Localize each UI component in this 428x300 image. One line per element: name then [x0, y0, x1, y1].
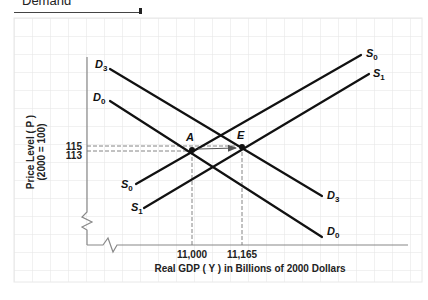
chart-canvas: A E D3 D0 D3 D0 S0 S1 S0 S1 115 113 11,0… — [0, 0, 428, 300]
point-e-marker — [239, 144, 245, 150]
x-axis-title: Real GDP ( Y ) in Billions of 2000 Dolla… — [154, 263, 346, 274]
xtick-11165: 11,165 — [227, 249, 257, 260]
ytick-113: 113 — [66, 150, 83, 161]
point-a-marker — [189, 147, 195, 153]
y-axis-title: Price Level ( P ) (2000 = 100) — [25, 115, 47, 189]
xtick-11000: 11,000 — [177, 249, 207, 260]
svg-text:(2000 = 100): (2000 = 100) — [36, 124, 47, 181]
point-a-label: A — [185, 131, 194, 143]
point-e-label: E — [237, 129, 245, 141]
svg-text:Price Level ( P ): Price Level ( P ) — [25, 115, 36, 189]
